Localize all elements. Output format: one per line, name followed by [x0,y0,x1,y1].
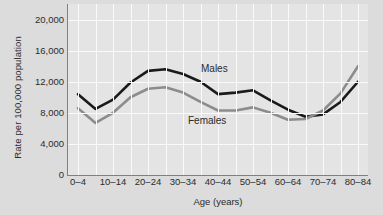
vertical-gridline [113,4,114,175]
vertical-gridline [253,4,254,175]
vertical-gridline [166,4,167,175]
vertical-gridline [288,4,289,175]
y-tick-label: 12,000 [20,77,64,87]
vertical-gridline [218,4,219,175]
vertical-gridline [201,4,202,175]
y-tick-label: 4,000 [20,139,64,149]
x-tick-label: 30–34 [170,177,196,187]
vertical-gridline [306,4,307,175]
y-tick-label: 20,000 [20,15,64,25]
x-tick-label: 50–54 [240,177,266,187]
vertical-gridline [358,4,359,175]
vertical-gridline [183,4,184,175]
vertical-gridline [341,4,342,175]
x-tick-label: 10–14 [100,177,126,187]
x-tick-label: 40–44 [205,177,231,187]
chart-figure: Rate per 100,000 population 04,0008,0001… [0,0,383,215]
vertical-gridline [131,4,132,175]
x-axis-tick-labels: 0–410–1420–2430–3440–4450–5460–6470–7480… [0,177,383,193]
x-tick-label: 20–24 [135,177,161,187]
x-axis-title: Age (years) [68,196,368,207]
series-label-females: Females [188,115,226,126]
vertical-gridline [236,4,237,175]
x-tick-label: 60–64 [275,177,301,187]
series-label-males: Males [201,63,228,74]
plot-area: Males Females [68,4,368,175]
vertical-gridline [323,4,324,175]
vertical-gridline [148,4,149,175]
y-tick-label: 16,000 [20,46,64,56]
x-tick-label: 70–74 [310,177,336,187]
vertical-gridline [96,4,97,175]
y-tick-label: 8,000 [20,108,64,118]
y-axis-line [67,4,68,176]
vertical-gridline [78,4,79,175]
vertical-gridline [271,4,272,175]
x-tick-label: 0–4 [70,177,86,187]
x-tick-label: 80–84 [345,177,371,187]
